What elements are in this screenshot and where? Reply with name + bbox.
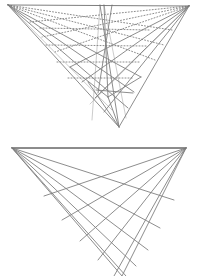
geometric-figures-canvas	[0, 0, 198, 276]
